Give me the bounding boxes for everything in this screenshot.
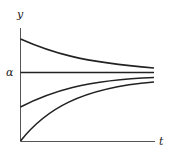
solution-curves-diagram: y t α (0, 0, 172, 154)
curve-below-equilibrium-1 (21, 78, 155, 108)
curve-below-equilibrium-2 (21, 82, 155, 141)
curve-above-equilibrium (21, 39, 155, 68)
alpha-label: α (6, 66, 14, 79)
y-axis-label: y (16, 8, 24, 21)
t-axis-label: t (159, 135, 164, 148)
